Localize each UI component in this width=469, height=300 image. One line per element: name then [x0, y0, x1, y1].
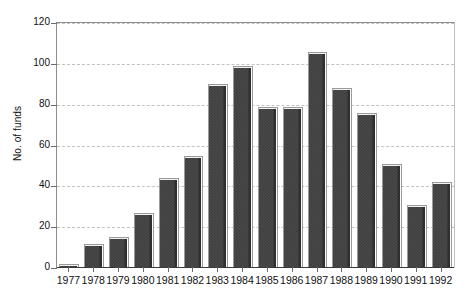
x-tick-mark: [341, 267, 342, 272]
x-tick-label: 1985: [255, 275, 278, 287]
x-tick-label: 1979: [106, 275, 129, 287]
x-tick-mark: [168, 267, 169, 272]
bar-slot: [407, 23, 427, 268]
bar-slot: [382, 23, 402, 268]
plot-area: [56, 22, 455, 268]
x-tick-label: 1981: [156, 275, 179, 287]
bar-slot: [208, 23, 228, 268]
bar-slot: [432, 23, 452, 268]
y-tick-label: 20: [39, 221, 50, 231]
x-tick-mark: [93, 267, 94, 272]
bar[interactable]: [109, 237, 129, 268]
x-tick-label: 1978: [82, 275, 105, 287]
y-tick-label: 40: [39, 180, 50, 190]
x-tick-label: 1977: [57, 275, 80, 287]
x-tick-label: 1980: [131, 275, 154, 287]
x-tick-mark: [317, 267, 318, 272]
bar[interactable]: [308, 52, 328, 268]
bar[interactable]: [233, 66, 253, 268]
y-tick-label: 60: [39, 140, 50, 150]
y-tick-label: 80: [39, 99, 50, 109]
bar-slot: [134, 23, 154, 268]
bar[interactable]: [208, 84, 228, 268]
x-tick-mark: [68, 267, 69, 272]
x-tick-mark: [366, 267, 367, 272]
x-tick-label: 1989: [354, 275, 377, 287]
x-tick-mark: [391, 267, 392, 272]
x-tick-mark: [441, 267, 442, 272]
bar[interactable]: [357, 113, 377, 268]
bar-slot: [109, 23, 129, 268]
bar-slot: [332, 23, 352, 268]
y-tick-label: 0: [44, 262, 50, 272]
x-tick-mark: [192, 267, 193, 272]
x-tick-mark: [267, 267, 268, 272]
x-tick-label: 1987: [305, 275, 328, 287]
x-axis-tick-marks: [56, 267, 453, 273]
x-tick-label: 1984: [230, 275, 253, 287]
bar-slot: [283, 23, 303, 268]
bar[interactable]: [84, 244, 104, 269]
bar-slot: [258, 23, 278, 268]
bar[interactable]: [134, 213, 154, 268]
bar-slot: [357, 23, 377, 268]
bar[interactable]: [432, 182, 452, 268]
bar-slot: [159, 23, 179, 268]
bar[interactable]: [332, 88, 352, 268]
bar-slot: [233, 23, 253, 268]
x-tick-mark: [143, 267, 144, 272]
bar-chart: No. of funds 020406080100120 19771978197…: [0, 0, 469, 300]
bar-slot: [308, 23, 328, 268]
x-tick-mark: [217, 267, 218, 272]
bars-layer: [57, 23, 454, 268]
y-tick-label: 100: [33, 58, 50, 68]
bar[interactable]: [159, 178, 179, 268]
y-tick-label: 120: [33, 17, 50, 27]
bar[interactable]: [382, 164, 402, 268]
x-tick-label: 1986: [280, 275, 303, 287]
bar-slot: [59, 23, 79, 268]
x-tick-label: 1990: [379, 275, 402, 287]
bar-slot: [184, 23, 204, 268]
x-tick-label: 1991: [404, 275, 427, 287]
x-tick-mark: [292, 267, 293, 272]
y-axis-tick-labels: 020406080100120: [12, 0, 50, 300]
bar[interactable]: [258, 107, 278, 268]
bar-slot: [84, 23, 104, 268]
x-tick-label: 1982: [181, 275, 204, 287]
x-tick-label: 1992: [429, 275, 452, 287]
x-tick-mark: [416, 267, 417, 272]
x-axis-tick-labels: 1977197819791980198119821983198419851986…: [56, 275, 453, 295]
bar[interactable]: [407, 205, 427, 268]
bar[interactable]: [283, 107, 303, 268]
x-tick-mark: [242, 267, 243, 272]
x-tick-label: 1988: [330, 275, 353, 287]
x-tick-mark: [118, 267, 119, 272]
x-tick-label: 1983: [206, 275, 229, 287]
bar[interactable]: [184, 156, 204, 268]
